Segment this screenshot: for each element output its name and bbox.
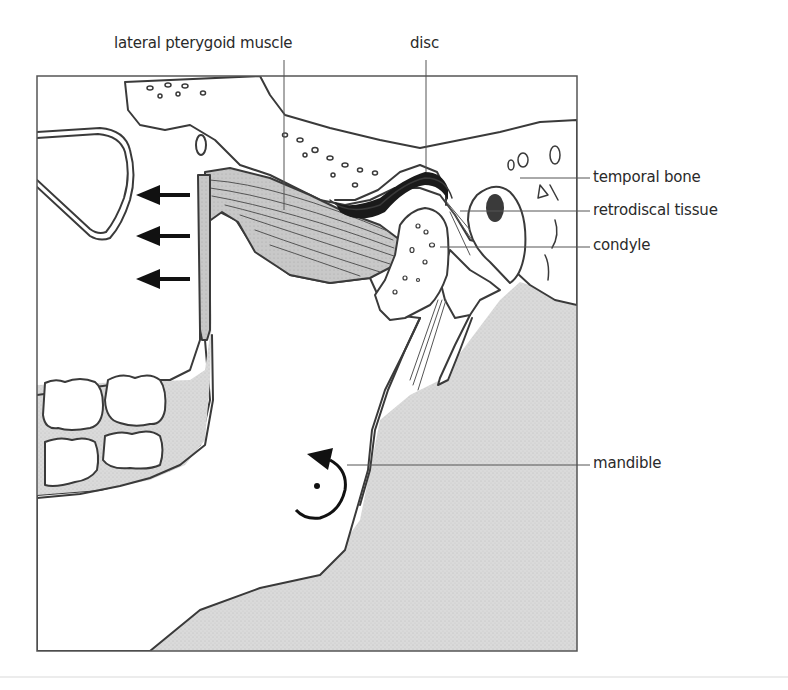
label-disc: disc [410, 34, 439, 52]
bottom-divider [0, 676, 788, 678]
arrow-left-icon [136, 226, 190, 246]
ear-canal [486, 194, 504, 222]
label-mandible: mandible [593, 454, 661, 472]
arrow-left-icon [136, 269, 190, 289]
label-temporal-bone: temporal bone [593, 168, 701, 186]
hamulus [196, 135, 206, 155]
pterygoid-plate [198, 175, 210, 340]
arrow-left-icon [136, 185, 190, 205]
tmj-diagram [0, 0, 788, 690]
label-lateral-pterygoid-muscle: lateral pterygoid muscle [114, 34, 292, 52]
label-retrodiscal-tissue: retrodiscal tissue [593, 201, 718, 219]
zygomatic-outline [37, 128, 134, 240]
pull-arrows [136, 185, 190, 289]
label-condyle: condyle [593, 236, 650, 254]
